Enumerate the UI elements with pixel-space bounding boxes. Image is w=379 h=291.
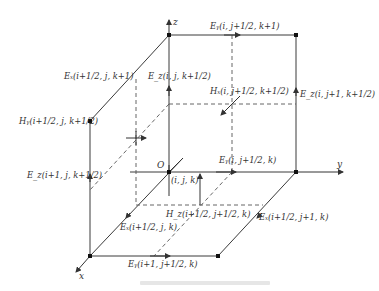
y-axis-label: y xyxy=(337,160,342,169)
origin-label: O xyxy=(157,161,164,170)
ey-bottom-front-label: Eᵧ(i+1, j+1/2, k) xyxy=(128,260,198,268)
ey-top-label: Eᵧ(i, j+1/2, k+1) xyxy=(210,22,280,30)
yee-cell-diagram: z y x O (i, j, k) Eᵧ(i, j+1/2, k+1) Eₓ(i… xyxy=(0,0,379,291)
hx-label: Hₓ(i, j+1/2, k+1/2) xyxy=(210,87,289,95)
ex-bottom-left-label: Eₓ(i+1/2, j, k) xyxy=(120,223,177,231)
hz-label: H_z(i+1/2, j+1/2, k) xyxy=(166,210,250,218)
origin-index-label: (i, j, k) xyxy=(171,176,199,184)
ex-top-label: Eₓ(i+1/2, j, k+1) xyxy=(64,72,133,80)
diagram-svg xyxy=(0,0,379,291)
axes xyxy=(76,20,343,272)
ex-bottom-right-label: Eₓ(i+1/2, j+1, k) xyxy=(259,213,328,221)
x-axis-arrow xyxy=(76,256,90,272)
x-axis-label: x xyxy=(79,272,84,281)
ez-back-left-label: E_z(i, j, k+1/2) xyxy=(148,72,211,80)
ey-bottom-back-label: Eᵧ(i, j+1/2, k) xyxy=(219,156,276,164)
ez-back-right-label: E_z(i, j+1, k+1/2) xyxy=(300,90,375,98)
figure-caption xyxy=(140,281,270,285)
hy-label: Hᵧ(i+1/2, j, k+1/2) xyxy=(19,117,98,125)
ez-front-left-label: E_z(i+1, j, k+1/2) xyxy=(27,171,102,179)
z-axis-label: z xyxy=(173,18,178,27)
